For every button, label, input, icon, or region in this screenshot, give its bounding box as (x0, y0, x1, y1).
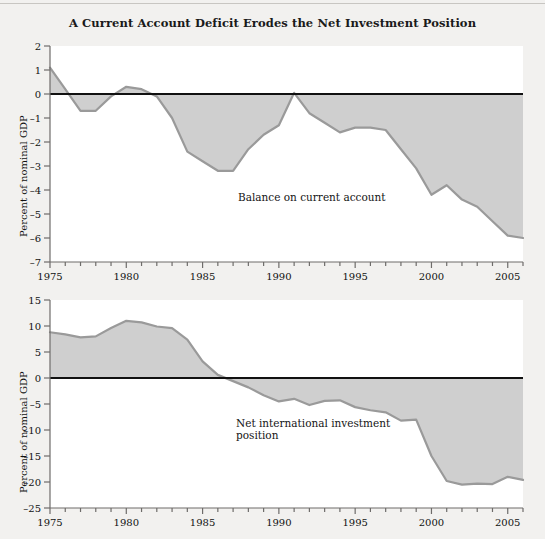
svg-text:15: 15 (28, 295, 41, 306)
panel-current-account: Percent of nominal GDP 210–1–2–3–4–5–6–7… (0, 32, 545, 284)
svg-text:1975: 1975 (37, 517, 62, 528)
svg-text:0: 0 (35, 89, 41, 100)
figure-top-rule (0, 3, 545, 4)
svg-text:–5: –5 (30, 399, 41, 410)
series-annotation-current-account: Balance on current account (238, 191, 386, 203)
page-title: A Current Account Deficit Erodes the Net… (0, 16, 545, 30)
svg-text:2000: 2000 (419, 517, 444, 528)
svg-text:–25: –25 (23, 503, 41, 514)
svg-text:–6: –6 (30, 233, 41, 244)
svg-text:5: 5 (35, 347, 41, 358)
figure-container: A Current Account Deficit Erodes the Net… (0, 0, 545, 539)
svg-text:1990: 1990 (266, 517, 291, 528)
y-axis-title-bottom: Percent of nominal GDP (18, 371, 29, 493)
chart-svg-net-investment-position: 151050–5–10–15–20–2519751980198519901995… (0, 288, 545, 539)
svg-text:1: 1 (35, 65, 41, 76)
series-annotation-net-investment-position: Net international investment position (236, 417, 390, 441)
svg-text:2000: 2000 (419, 271, 444, 282)
svg-text:–5: –5 (30, 209, 41, 220)
svg-text:1980: 1980 (114, 271, 139, 282)
svg-text:1985: 1985 (190, 271, 215, 282)
svg-text:2: 2 (35, 41, 41, 52)
svg-text:2005: 2005 (495, 517, 520, 528)
svg-text:–3: –3 (30, 161, 41, 172)
svg-text:1975: 1975 (37, 271, 62, 282)
chart-svg-current-account: 210–1–2–3–4–5–6–719751980198519901995200… (0, 32, 545, 284)
svg-text:–4: –4 (30, 185, 41, 196)
svg-text:0: 0 (35, 373, 41, 384)
svg-text:2005: 2005 (495, 271, 520, 282)
svg-text:1980: 1980 (114, 517, 139, 528)
y-axis-title-top: Percent of nominal GDP (18, 115, 29, 237)
svg-text:–2: –2 (30, 137, 41, 148)
svg-text:–1: –1 (30, 113, 41, 124)
svg-text:1985: 1985 (190, 517, 215, 528)
svg-text:1995: 1995 (342, 271, 367, 282)
svg-text:–7: –7 (30, 257, 41, 268)
panel-net-investment-position: Percent of nominal GDP 151050–5–10–15–20… (0, 288, 545, 539)
svg-text:10: 10 (28, 321, 41, 332)
svg-text:1995: 1995 (342, 517, 367, 528)
svg-text:1990: 1990 (266, 271, 291, 282)
